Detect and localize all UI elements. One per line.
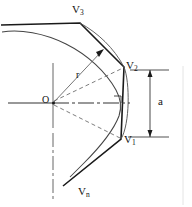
vertex-label-v2: V2	[126, 60, 138, 71]
origin-point	[52, 102, 55, 105]
inscribed-polygon	[1, 23, 124, 186]
dimension-label-a: a	[158, 96, 163, 107]
geometry-figure: V3 V2 V1 Vn O r a	[0, 0, 192, 207]
outer-arc	[2, 31, 121, 177]
origin-label: O	[42, 95, 49, 105]
vertex-label-v3: V3	[72, 4, 84, 15]
radius-label: r	[76, 70, 79, 80]
figure-canvas	[0, 0, 192, 207]
vertex-label-vn: Vn	[78, 186, 90, 197]
dimension-arrow-top-icon	[148, 70, 153, 77]
vertex-label-v1: V1	[124, 134, 136, 145]
dimension-arrow-bottom-icon	[148, 130, 153, 137]
